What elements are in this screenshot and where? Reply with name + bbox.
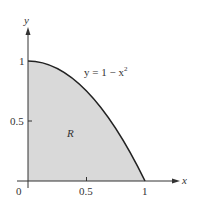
y-axis-arrow-icon <box>26 27 31 35</box>
y-tick-label-1: 1 <box>19 55 25 67</box>
curve-exponent: 2 <box>124 65 128 73</box>
x-tick-label-1: 1 <box>142 185 148 197</box>
origin-label: 0 <box>16 185 22 197</box>
y-axis-label: y <box>23 14 29 26</box>
region-label: R <box>66 127 74 139</box>
x-axis-arrow-icon <box>172 179 180 184</box>
y-tick-label-0.5: 0.5 <box>10 115 24 127</box>
x-axis-label: x <box>181 174 187 186</box>
x-tick-label-0.5: 0.5 <box>79 185 93 197</box>
curve-equation: y = 1 − x2 <box>84 65 128 78</box>
plot: y x 0 0.5 1 0.5 1 y = 1 − x2 R <box>0 0 199 208</box>
region-r-fill <box>28 61 145 181</box>
